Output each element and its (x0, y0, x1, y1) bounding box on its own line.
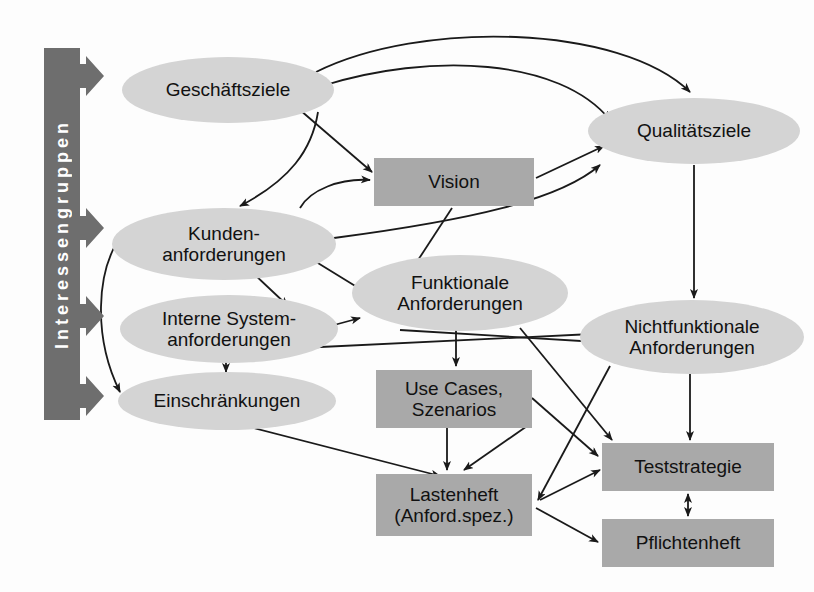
node-label-qualitaetsziele: Qualitätsziele (631, 120, 757, 141)
edge-interne-system-nichtfunktionale (300, 334, 592, 348)
edge-geschaeftsziele-nichtfunktionale (322, 65, 610, 120)
node-label-interne-system-line1: Interne System- (156, 308, 302, 329)
edge-lastenheft-pflichtenheft (536, 508, 598, 542)
node-use-cases-szenarios[interactable]: Use Cases, Szenarios (376, 370, 532, 428)
node-label-funktionale-line2: Anforderungen (391, 293, 529, 314)
node-label-nichtfunktionale-line1: Nichtfunktionale (618, 316, 765, 337)
node-label-nichtfunktionale-line2: Anforderungen (623, 337, 761, 358)
edge-use-cases-lastenheft-diagonal (464, 424, 530, 470)
node-einschraenkungen[interactable]: Einschränkungen (118, 372, 336, 430)
node-qualitaetsziele[interactable]: Qualitätsziele (588, 98, 800, 164)
node-lastenheft[interactable]: Lastenheft (Anford.spez.) (376, 474, 532, 536)
node-label-kundenanforderungen-line2: anforderungen (156, 244, 292, 265)
node-geschaeftsziele[interactable]: Geschäftsziele (122, 57, 334, 123)
edge-geschaeftsziele-vision (300, 110, 372, 172)
node-label-interne-system-line2: anforderungen (161, 329, 297, 350)
node-label-kundenanforderungen-line1: Kunden- (182, 223, 266, 244)
edge-lastenheft-teststrategie (540, 470, 600, 500)
node-kundenanforderungen[interactable]: Kunden- anforderungen (112, 208, 336, 280)
node-label-use-cases-line2: Szenarios (406, 399, 503, 420)
node-nichtfunktionale-anforderungen[interactable]: Nichtfunktionale Anforderungen (580, 300, 804, 374)
edge-nichtfunktionale-lastenheft (538, 366, 610, 500)
node-label-pflichtenheft: Pflichtenheft (630, 532, 747, 553)
node-label-lastenheft-line2: (Anford.spez.) (388, 505, 519, 526)
node-interne-systemanforderungen[interactable]: Interne System- anforderungen (120, 295, 338, 363)
stakeholder-bar: Interessengruppen (44, 48, 80, 420)
edge-vision-qualitaetsziele (536, 146, 604, 178)
node-label-use-cases-line1: Use Cases, (399, 378, 509, 399)
node-label-lastenheft-line1: Lastenheft (404, 484, 505, 505)
node-teststrategie[interactable]: Teststrategie (602, 443, 774, 491)
node-label-geschaeftsziele: Geschäftsziele (160, 79, 297, 100)
node-label-funktionale-line1: Funktionale (405, 272, 515, 293)
edge-geschaeftsziele-kundenanforderungen (240, 112, 318, 206)
node-pflichtenheft[interactable]: Pflichtenheft (602, 519, 774, 567)
edge-einschraenkungen-lastenheft (238, 424, 440, 476)
edge-geschaeftsziele-qualitaetsziele (316, 37, 690, 92)
node-label-teststrategie: Teststrategie (628, 456, 748, 477)
node-vision[interactable]: Vision (374, 158, 534, 206)
edge-funktionale-nichtfunktionale (400, 330, 598, 342)
edge-kundenanforderungen-vision (300, 180, 370, 208)
edge-use-cases-teststrategie (532, 398, 598, 456)
node-label-vision: Vision (422, 171, 485, 192)
node-label-einschraenkungen: Einschränkungen (148, 390, 307, 411)
stakeholder-bar-label: Interessengruppen (44, 48, 80, 420)
node-funktionale-anforderungen[interactable]: Funktionale Anforderungen (352, 255, 568, 331)
diagram-canvas: Interessengruppen Geschäftsziele Qualitä… (0, 0, 814, 592)
